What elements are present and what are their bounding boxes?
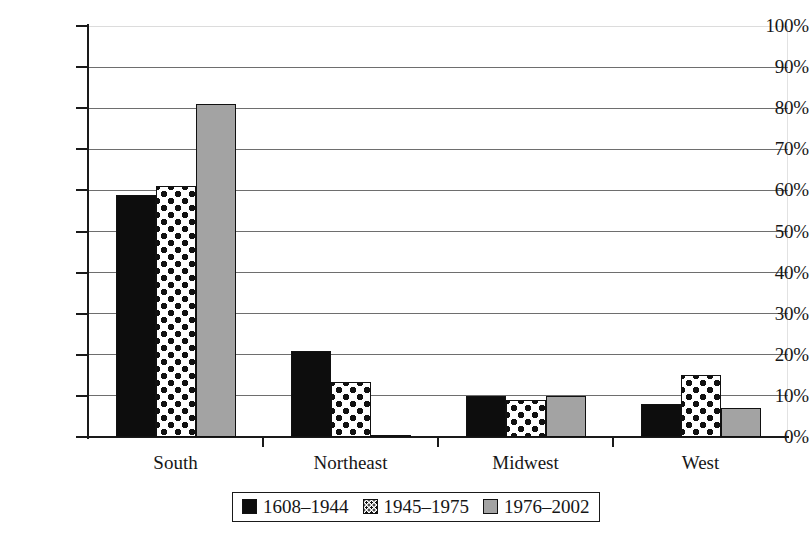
- bar: [546, 396, 586, 437]
- x-axis-label-northeast: Northeast: [263, 452, 438, 474]
- legend-item: 1976–2002: [483, 497, 590, 516]
- legend-label: 1945–1975: [384, 497, 470, 516]
- bar: [196, 104, 236, 437]
- legend-item: 1945–1975: [363, 497, 470, 516]
- legend-item: 1608–1944: [242, 497, 349, 516]
- x-axis-label-midwest: Midwest: [438, 452, 613, 474]
- bar-group: [438, 26, 613, 437]
- x-axis-tick: [437, 438, 439, 447]
- bar: [116, 195, 156, 437]
- legend-label: 1976–2002: [504, 497, 590, 516]
- bar: [371, 435, 411, 437]
- bar: [156, 186, 196, 437]
- bar: [641, 404, 681, 437]
- chart-legend: 1608–19441945–19751976–2002: [232, 492, 600, 522]
- bar: [291, 351, 331, 437]
- x-axis-label-west: West: [613, 452, 788, 474]
- bar-group: [88, 26, 263, 437]
- legend-label: 1608–1944: [263, 497, 349, 516]
- x-axis-tick: [262, 438, 264, 447]
- legend-swatch-icon: [363, 499, 378, 514]
- legend-swatch-icon: [242, 499, 257, 514]
- bar: [721, 408, 761, 437]
- bar-group: [263, 26, 438, 437]
- bar: [681, 375, 721, 437]
- x-axis-label-south: South: [88, 452, 263, 474]
- x-axis-tick: [612, 438, 614, 447]
- bar-group: [613, 26, 788, 437]
- bar: [466, 396, 506, 437]
- legend-swatch-icon: [483, 499, 498, 514]
- bar: [506, 400, 546, 437]
- bar: [331, 382, 371, 437]
- bar-chart: 100%90%80%70%60%50%40%30%20%10%0% SouthN…: [0, 0, 809, 534]
